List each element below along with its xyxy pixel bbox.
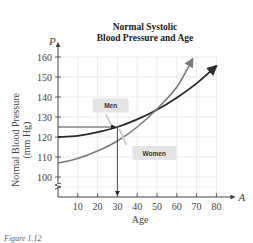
x-tick-label: 30 (112, 201, 122, 212)
y-tick-label: 140 (37, 92, 52, 103)
y-tick-label: 130 (37, 112, 52, 123)
women-label: Women (143, 150, 166, 157)
x-tick-label: 10 (73, 201, 83, 212)
x-axis-title: Age (132, 214, 149, 225)
y-axis-letter: P (48, 35, 56, 47)
x-tick-label: 60 (172, 201, 182, 212)
x-tick-label: 40 (132, 201, 142, 212)
x-tick-label: 50 (152, 201, 162, 212)
y-tick-label: 160 (37, 52, 52, 63)
x-tick-label: 70 (192, 201, 202, 212)
men-label: Men (104, 102, 117, 109)
x-tick-label: 20 (93, 201, 103, 212)
figure-caption: Figure 1.12 (4, 234, 41, 243)
y-tick-label: 110 (37, 152, 52, 163)
y-tick-label: 150 (37, 72, 52, 83)
y-tick-label: 100 (37, 172, 52, 183)
axis-ticks: 1001101201301401501601020304050607080Age (37, 52, 221, 226)
chart-canvas: PA 1001101201301401501601020304050607080… (0, 0, 253, 243)
x-axis-letter: A (237, 191, 245, 203)
y-tick-label: 120 (37, 132, 52, 143)
axis-break-icon (55, 183, 61, 189)
men-label-pointer (106, 114, 112, 125)
x-tick-label: 80 (211, 201, 221, 212)
